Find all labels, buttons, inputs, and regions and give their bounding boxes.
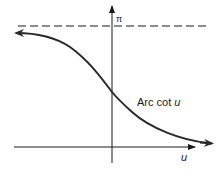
curve-label: Arc cot u <box>137 96 180 108</box>
x-axis-label: u <box>181 151 187 163</box>
curve-label-var: u <box>174 96 180 108</box>
arccot-graph: π Arc cot u u <box>0 0 224 172</box>
curve-label-func: Arc cot <box>137 96 174 108</box>
arccot-curve-right-end <box>200 143 212 144</box>
pi-label: π <box>116 14 122 24</box>
